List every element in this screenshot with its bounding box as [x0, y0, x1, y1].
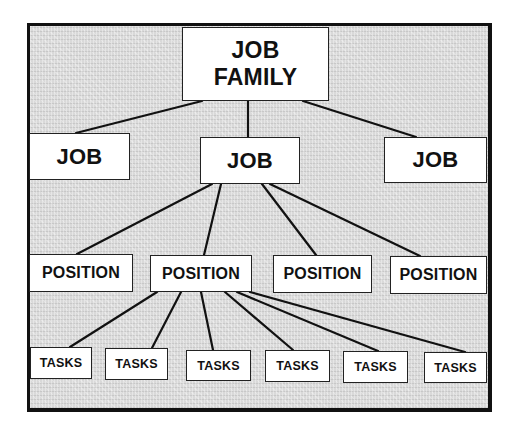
edge-job2-pos4 [270, 184, 420, 256]
node-tasks-4: TASKS [265, 350, 330, 382]
node-position-1: POSITION [29, 254, 133, 292]
node-label: POSITION [162, 265, 240, 283]
node-label: JOB [413, 147, 459, 173]
node-label: POSITION [42, 264, 120, 282]
node-tasks-1: TASKS [30, 347, 92, 379]
node-job-right: JOB [384, 137, 487, 183]
node-label: FAMILY [214, 64, 297, 91]
node-label: TASKS [354, 360, 396, 374]
node-tasks-5: TASKS [343, 351, 408, 383]
node-label: TASKS [115, 357, 157, 371]
node-position-3: POSITION [273, 255, 372, 293]
node-position-4: POSITION [390, 256, 487, 294]
node-label: POSITION [283, 265, 361, 283]
edge-family-job3 [303, 101, 416, 137]
node-label: JOB [227, 148, 273, 174]
node-tasks-6: TASKS [424, 352, 487, 383]
edge-job2-pos1 [77, 184, 212, 254]
node-label: POSITION [399, 266, 477, 284]
node-label: TASKS [197, 359, 239, 373]
node-label: JOB [232, 37, 280, 64]
node-tasks-2: TASKS [105, 348, 168, 380]
node-label: JOB [57, 144, 103, 170]
node-tasks-3: TASKS [186, 350, 251, 381]
edge-job2-pos3 [262, 184, 316, 255]
node-job-family: JOB FAMILY [182, 27, 329, 101]
edge-pos2-task1 [70, 292, 157, 347]
edge-job2-pos2 [204, 184, 221, 255]
node-label: TASKS [40, 356, 82, 370]
edge-pos2-task2 [152, 292, 181, 348]
node-position-2: POSITION [150, 255, 252, 292]
node-label: TASKS [276, 359, 318, 373]
node-label: TASKS [434, 361, 476, 375]
edge-pos2-task3 [201, 292, 213, 350]
node-job-left: JOB [29, 133, 130, 180]
node-job-center: JOB [200, 137, 300, 184]
edge-family-job1 [76, 101, 202, 133]
